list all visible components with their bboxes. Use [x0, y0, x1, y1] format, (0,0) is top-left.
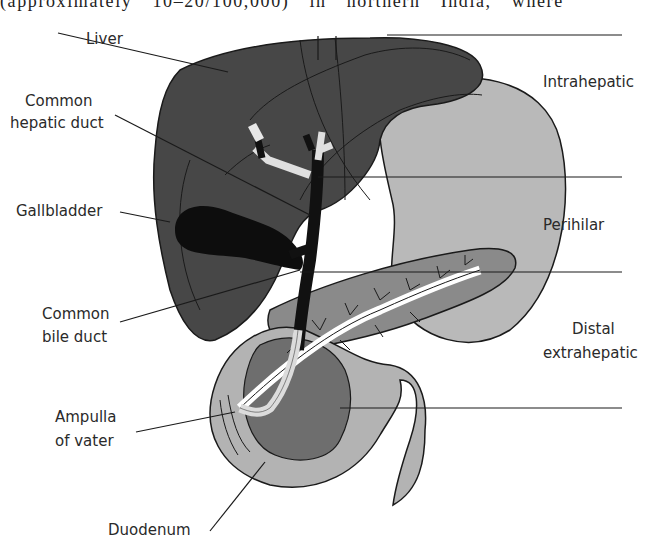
label-duodenum: Duodenum	[108, 519, 191, 541]
label-perihilar: Perihilar	[543, 214, 604, 236]
label-common-hepatic-duct-line1: Common	[25, 90, 93, 112]
label-liver: Liver	[86, 28, 123, 50]
label-ampulla-line1: Ampulla	[55, 406, 116, 428]
label-common-bile-duct-line1: Common	[42, 303, 110, 325]
label-common-bile-duct-line2: bile duct	[42, 326, 107, 348]
label-gallbladder: Gallbladder	[16, 200, 102, 222]
label-distal-line2: extrahepatic	[543, 342, 638, 364]
label-distal-line1: Distal	[572, 318, 615, 340]
label-intrahepatic: Intrahepatic	[543, 71, 634, 93]
label-ampulla-line2: of vater	[55, 430, 114, 452]
label-common-hepatic-duct-line2: hepatic duct	[10, 112, 104, 134]
